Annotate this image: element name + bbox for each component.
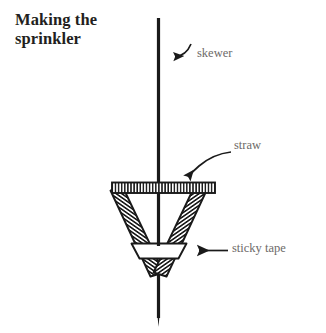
top-straw <box>112 183 215 194</box>
page-title-line-2: sprinkler <box>15 29 165 48</box>
callout-label-sticky-tape: sticky tape <box>232 241 286 256</box>
diagram-background <box>0 0 326 333</box>
page-title-line-1: Making the <box>15 10 165 29</box>
sprinkler-assembly-diagram <box>0 0 326 333</box>
callout-label-skewer: skewer <box>197 46 232 61</box>
callout-label-straw: straw <box>234 138 261 153</box>
skewer-rod <box>157 18 160 327</box>
page-title: Making the sprinkler <box>15 10 165 48</box>
